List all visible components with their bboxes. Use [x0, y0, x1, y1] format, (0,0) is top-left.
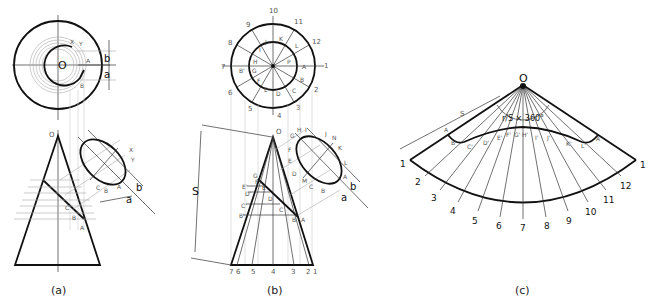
aux-y-label: Y: [130, 156, 135, 163]
arc-num-6: 6: [496, 221, 502, 231]
top-num-11: 11: [294, 18, 303, 26]
aux-dim-a: a: [341, 192, 347, 203]
panel-a-front-view: O A B C: [14, 130, 100, 272]
curve-label-l: L': [581, 142, 586, 149]
aux-label-f: F: [288, 146, 292, 153]
curve-label-a-left: A: [444, 126, 449, 133]
top-letter-h: H: [253, 58, 258, 65]
front-point-b-label: B: [72, 214, 76, 221]
curve-label-g: G': [514, 131, 521, 138]
front-letter-a: A: [301, 216, 306, 223]
top-letter-f: F: [257, 77, 261, 84]
curve-label-i: I': [535, 134, 539, 141]
arc-num-4: 4: [450, 206, 456, 216]
arc-num-9: 9: [566, 216, 572, 226]
arc-num-10: 10: [585, 207, 597, 217]
caption-a: (a): [51, 284, 66, 297]
arc-num-7: 7: [520, 223, 526, 233]
oblique-section-cone-development-figure: O A B X Y b a O A B C: [0, 0, 650, 306]
arc-num-3: 3: [431, 193, 437, 203]
top-num-4: 4: [277, 112, 282, 120]
front-letter-d-prime: D': [245, 190, 252, 197]
aux-dim-b: b: [350, 181, 356, 192]
panel-b-top-view: 10 11 12 1 2 3 4 5 6 7 8 9 A B C D E F G…: [221, 7, 328, 120]
aux-label-e: E: [288, 157, 292, 164]
curve-label-k: K': [566, 140, 572, 147]
aux-x-label: X: [129, 146, 133, 153]
front-letter-b-prime: B': [239, 212, 245, 219]
arc-num-8: 8: [544, 221, 550, 231]
top-letter-e: E: [264, 86, 268, 93]
arc-num-5: 5: [472, 216, 478, 226]
base-num-5: 5: [251, 268, 255, 276]
aux-label-k: K: [338, 144, 343, 151]
top-num-2: 2: [314, 86, 318, 94]
aux-dim-b-label: b: [136, 182, 142, 193]
front-letter-c-prime: C': [241, 202, 247, 209]
panel-a: O A B X Y b a O A B C: [12, 15, 155, 297]
base-num-4: 4: [271, 268, 276, 276]
curve-label-f: F': [506, 131, 511, 138]
top-letter-l: L: [295, 42, 299, 49]
top-letter-d: D: [276, 90, 281, 97]
top-num-8: 8: [228, 39, 232, 47]
base-num-6: 6: [236, 268, 241, 276]
aux-label-d: D: [292, 170, 297, 177]
top-letter-j: J: [264, 38, 267, 46]
base-num-2: 2: [306, 268, 310, 276]
aux-label-b: B: [321, 187, 325, 194]
curve-label-b: B': [451, 139, 457, 146]
top-num-9: 9: [246, 21, 250, 29]
dev-apex-label: O: [519, 72, 528, 85]
aux-label-a: A: [343, 173, 348, 180]
top-letter-i: I: [259, 46, 261, 53]
top-letter-g: G: [252, 67, 257, 74]
top-letter-b: B: [300, 76, 304, 83]
caption-b: (b): [267, 284, 283, 297]
base-num-1: 1: [313, 268, 317, 276]
point-x-label: X: [70, 38, 74, 45]
point-b-label: B: [80, 82, 84, 89]
dim-a-label: a: [104, 69, 110, 80]
top-num-10: 10: [269, 7, 278, 15]
aux-dim-a-label: a: [126, 194, 132, 205]
arc-num-12: 12: [620, 181, 631, 191]
curve-labels: A B' C' D' E' F' G' H' I' J' K' L' A: [444, 126, 601, 150]
top-letter-b-prime: B': [239, 67, 245, 74]
base-num-7: 7: [229, 268, 233, 276]
aux-label-h: H: [297, 126, 302, 133]
panel-b-auxiliary-view: G H I J N K L F E D M C B A b a: [275, 126, 368, 215]
panel-b-front-view: O S G F' E' D' C' B' E D C B A 7 6 5 4 3…: [191, 125, 317, 276]
base-num-3: 3: [291, 268, 295, 276]
front-point-c-label: C: [65, 204, 69, 211]
front-letter-b: B: [292, 216, 296, 223]
arc-num-2: 2: [415, 177, 421, 187]
front-letter-d: D: [268, 195, 273, 202]
aux-label-c: C: [309, 183, 313, 190]
aux-c-label: C: [96, 184, 100, 191]
slant-label-s: S: [192, 185, 199, 198]
front-letter-e-prime: E': [242, 183, 248, 190]
front-letter-f-prime: F': [255, 178, 260, 185]
panel-a-auxiliary-view: X Y C B A b a: [60, 130, 155, 214]
front-apex-label: O: [49, 131, 55, 139]
point-a-label: A: [86, 57, 91, 64]
top-num-6: 6: [228, 89, 233, 97]
top-num-12: 12: [312, 38, 321, 46]
curve-label-e: E': [497, 134, 503, 141]
top-letter-a: A: [302, 63, 307, 70]
dev-slant-label: S: [460, 110, 465, 118]
aux-b-label: B: [104, 187, 108, 194]
front-letter-c: C: [279, 206, 283, 213]
angle-formula: r/S × 360°: [502, 114, 544, 123]
front-apex-o: O: [276, 128, 282, 136]
top-num-1: 1: [324, 62, 328, 70]
curve-label-d: D': [483, 139, 490, 146]
panel-a-top-view: O A B X Y b a: [12, 15, 116, 120]
arc-num-1-right: 1: [640, 160, 646, 170]
front-letter-e: E: [262, 184, 266, 191]
curve-label-j: J': [546, 134, 551, 142]
aux-label-m: M: [302, 177, 307, 184]
aux-a-label: A: [117, 183, 122, 190]
caption-c: (c): [515, 284, 530, 297]
